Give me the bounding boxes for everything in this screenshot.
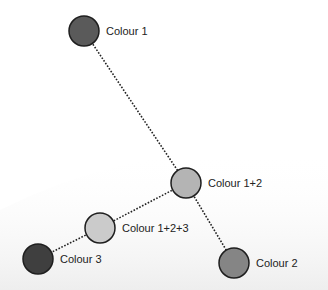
node-label-c123: Colour 1+2+3 <box>122 222 189 234</box>
node-c123 <box>85 213 115 243</box>
node-label-c1: Colour 1 <box>106 25 148 37</box>
node-c3 <box>23 244 53 274</box>
node-label-c2: Colour 2 <box>256 257 298 269</box>
node-c2 <box>219 248 249 278</box>
node-c12 <box>171 168 201 198</box>
diagram-svg <box>0 0 328 290</box>
diagram-canvas: Colour 1Colour 1+2Colour 1+2+3Colour 3Co… <box>0 0 328 290</box>
edge-c1-c12 <box>84 31 186 183</box>
node-label-c12: Colour 1+2 <box>208 177 262 189</box>
node-label-c3: Colour 3 <box>60 253 102 265</box>
node-c1 <box>69 16 99 46</box>
